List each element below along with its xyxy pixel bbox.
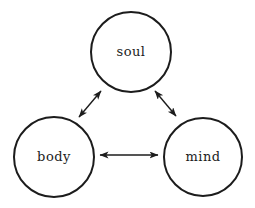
diagram-canvas: soul body mind	[0, 0, 255, 208]
edge-soul-body-arrow	[79, 91, 101, 117]
node-label-mind: mind	[185, 149, 220, 164]
edge-soul-mind-arrow	[155, 91, 176, 116]
node-label-body: body	[37, 149, 71, 164]
soul-body-mind-diagram: soul body mind	[0, 0, 255, 208]
node-label-soul: soul	[116, 44, 145, 59]
